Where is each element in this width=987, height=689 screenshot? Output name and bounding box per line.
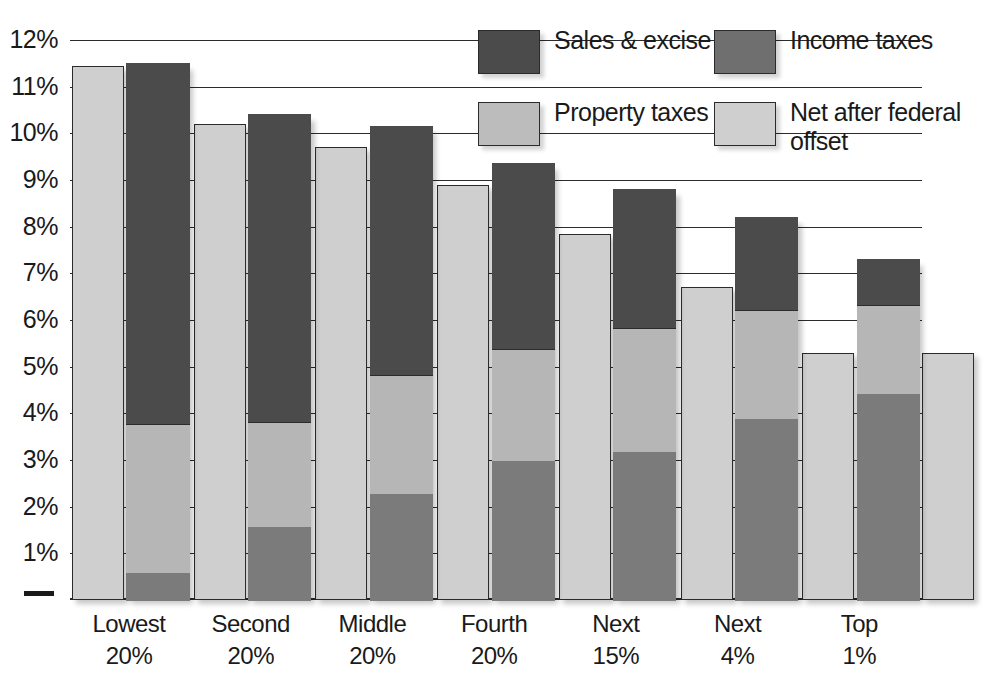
x-axis-tick-label-line2: 4% <box>677 640 799 672</box>
y-axis-tick-label: 2% <box>23 494 58 519</box>
x-axis-tick-label: Lowest20% <box>68 608 190 672</box>
bar-stacked-total <box>736 220 798 600</box>
segment-property-taxes <box>613 328 676 452</box>
y-axis-tick-label: 12% <box>9 27 58 52</box>
y-axis-tick-label: 9% <box>23 167 58 192</box>
x-axis-tick-label: Top1% <box>798 608 920 672</box>
y-axis-tick-label: 3% <box>23 447 58 472</box>
x-axis-tick-label-line2: 20% <box>433 640 555 672</box>
x-axis-tick-label-line1: Top <box>798 608 920 640</box>
segment-sales-excise-taxes <box>126 63 189 424</box>
bar-net-fill <box>438 186 488 599</box>
y-axis-tick-label: 6% <box>23 307 58 332</box>
x-axis-tick-label-line1: Next <box>677 608 799 640</box>
bar-net-fill <box>560 235 610 599</box>
bar-net-after-federal-offset <box>194 124 246 600</box>
x-axis-tick-label-line2: 20% <box>190 640 312 672</box>
y-axis-tick-label: 11% <box>11 74 58 99</box>
segment-income-taxes <box>492 461 555 600</box>
bar-net-fill <box>195 125 245 599</box>
y-axis-tick-label: 8% <box>23 214 58 239</box>
x-axis-tick-label-line2: 15% <box>555 640 677 672</box>
segment-income-taxes <box>248 527 311 601</box>
bar-stacked-total <box>492 166 554 600</box>
x-axis-tick-label-line1: Lowest <box>68 608 190 640</box>
bar-stacked-total <box>857 262 919 600</box>
bar-net-after-federal-offset <box>559 234 611 600</box>
bar-net-after-federal-offset <box>802 353 854 600</box>
segment-property-taxes <box>492 349 555 461</box>
bar-net-fill <box>682 288 732 599</box>
x-axis-tick-label: Next4% <box>677 608 799 672</box>
bar-net-fill <box>73 67 123 599</box>
bar-net-after-federal-offset <box>72 66 124 600</box>
segment-property-taxes <box>857 305 920 394</box>
bar-net-fill <box>316 148 366 599</box>
segment-income-taxes <box>857 394 920 601</box>
sales-swatch <box>478 30 540 74</box>
x-axis: Lowest20%Second20%Middle20%Fourth20%Next… <box>70 608 922 688</box>
segment-sales-excise-taxes <box>492 163 555 349</box>
segment-sales-excise-taxes <box>370 126 433 375</box>
x-axis-tick-label-line1: Second <box>190 608 312 640</box>
bar-stacked-total <box>249 117 311 600</box>
segment-income-taxes <box>735 419 798 600</box>
property-swatch <box>478 102 540 146</box>
x-axis-tick-label: Fourth20% <box>433 608 555 672</box>
bar-net-fill <box>803 354 853 599</box>
bar-stacked-total <box>614 192 676 600</box>
x-axis-tick-label: Middle20% <box>312 608 434 672</box>
x-axis-tick-label-line1: Next <box>555 608 677 640</box>
bar-net-after-federal-offset <box>681 287 733 600</box>
bar-net-after-federal-offset-trailing <box>922 353 974 600</box>
y-axis-tick-label: 5% <box>23 354 58 379</box>
y-axis-tick-label: 7% <box>23 260 58 285</box>
segment-property-taxes <box>126 424 189 573</box>
segment-property-taxes <box>370 375 433 494</box>
x-axis-tick-label: Next15% <box>555 608 677 672</box>
x-axis-tick-label-line2: 20% <box>68 640 190 672</box>
x-axis-tick-label-line1: Fourth <box>433 608 555 640</box>
chart-legend: Sales & excise taxesIncome taxesProperty… <box>478 28 928 156</box>
x-axis-tick-label: Second20% <box>190 608 312 672</box>
segment-sales-excise-taxes <box>735 217 798 310</box>
x-axis-tick-label-line2: 20% <box>312 640 434 672</box>
y-axis: 12%11%10%9%8%7%6%5%4%3%2%1% <box>0 0 66 620</box>
bar-stacked-total <box>370 129 432 600</box>
y-axis-tick-label: 1% <box>23 540 58 565</box>
segment-income-taxes <box>126 573 189 600</box>
x-axis-tick-label-line1: Middle <box>312 608 434 640</box>
bar-net-after-federal-offset <box>437 185 489 600</box>
income-swatch <box>714 30 776 74</box>
bar-net-after-federal-offset <box>315 147 367 600</box>
segment-sales-excise-taxes <box>248 114 311 421</box>
y-axis-tick-label: 10% <box>9 120 58 145</box>
segment-income-taxes <box>370 494 433 601</box>
legend-item-label: Net after federal offset <box>790 98 987 156</box>
segment-income-taxes <box>613 452 676 601</box>
segment-sales-excise-taxes <box>613 189 676 328</box>
y-axis-tick-label: 4% <box>23 400 58 425</box>
segment-property-taxes <box>248 422 311 527</box>
legend-item-label: Income taxes <box>790 26 987 55</box>
bar-net-fill <box>923 354 973 599</box>
segment-sales-excise-taxes <box>857 259 920 305</box>
segment-property-taxes <box>735 310 798 420</box>
net-swatch <box>714 102 776 146</box>
y-axis-zero-tick-mark <box>24 591 54 596</box>
x-axis-tick-label-line2: 1% <box>798 640 920 672</box>
bar-stacked-total <box>127 66 189 600</box>
